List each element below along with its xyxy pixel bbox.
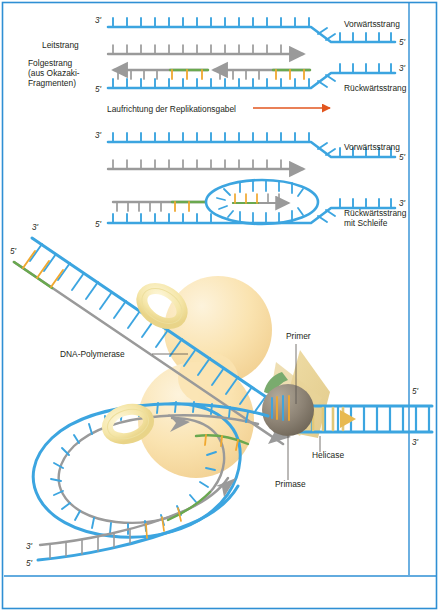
end-label-p1-top-right: 5' [399,38,406,47]
end-label-p1-bottom-left: 5' [95,85,102,94]
label-folgestrang-line1: Folgestrang [28,58,73,68]
label-helicase: Helicase [312,450,344,460]
callout-primase: Primase [275,436,306,489]
end-label-p2-bottom-right: 3' [399,199,406,208]
dna-replication-figure: Leitstrang Folgestrang (aus Okazaki- Fra… [0,0,439,611]
direction-annotation: Laufrichtung der Replikationsgabel [107,104,330,114]
label-primer: Primer [286,331,311,341]
end-label-p3-bottom-5prime: 5' [26,559,33,568]
label-primase: Primase [275,479,306,489]
label-vorwaertsstrang-1: Vorwärtsstrang [344,19,400,29]
label-rueckwaertsstrang-1: Rückwärtsstrang [344,83,407,93]
end-label-p2-bottom-left: 5' [95,220,102,229]
label-rueckwaertsstrang-2-line1: Rückwärtsstrang [344,208,407,218]
p2-leading-new-strand [108,160,303,169]
figure-canvas: Leitstrang Folgestrang (aus Okazaki- Fra… [0,0,439,611]
label-leitstrang: Leitstrang [42,40,79,50]
label-vorwaertsstrang-2: Vorwärtsstrang [344,142,400,152]
p3-completed-okazaki-bottom [38,478,238,560]
p1-okazaki-fragment-2 [214,70,310,79]
end-label-p3-right-3prime: 3' [412,438,419,447]
label-rueckwaertsstrang-2-line2: mit Schleife [344,218,388,228]
panel-3-replisome: DNA-Polymerase Primer Helicase Primase 3… [10,223,432,568]
end-label-p3-bottom-3prime: 3' [26,542,33,551]
label-dna-polymerase: DNA-Polymerase [60,349,125,359]
label-folgestrang-line3: Fragmenten) [28,78,76,88]
p2-nascent-fragment-in-loop [233,194,288,203]
end-label-p3-right-5prime: 5' [412,387,419,396]
p1-leading-new-strand [108,45,303,54]
label-laufrichtung: Laufrichtung der Replikationsgabel [107,104,236,114]
end-label-p2-top-left: 3' [95,131,102,140]
callout-helicase: Helicase [312,436,344,460]
end-label-p3-diag-5prime: 5' [10,247,17,256]
p2-okazaki-fragment-completed [113,202,205,211]
label-folgestrang-line2: (aus Okazaki- [28,68,80,78]
panel-1: Leitstrang Folgestrang (aus Okazaki- Fra… [28,16,407,94]
end-label-p2-top-right: 5' [399,153,406,162]
end-label-p3-diag-3prime: 3' [32,223,39,232]
end-label-p1-bottom-right: 3' [399,64,406,73]
sliding-clamp-upper[interactable] [135,281,188,330]
helicase-motion-arrow [340,410,356,428]
p1-okazaki-fragment-1 [114,70,208,79]
end-label-p1-top-left: 3' [95,16,102,25]
panel-2: Vorwärtsstrang Rückwärtsstrang mit Schle… [95,131,407,229]
